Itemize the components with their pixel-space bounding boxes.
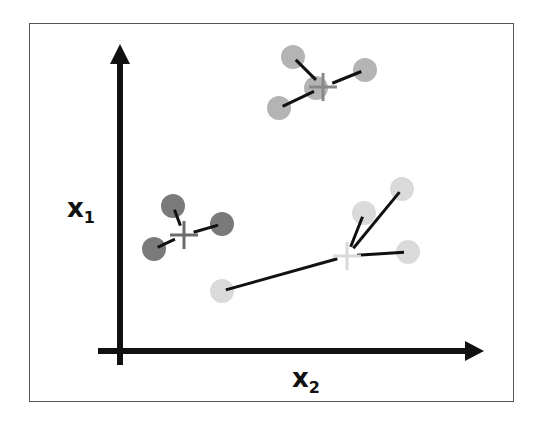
assignment-line — [296, 60, 316, 80]
data-point — [161, 194, 185, 218]
top-cluster — [267, 45, 377, 120]
x2-axis-label: x2 — [292, 365, 320, 396]
data-point — [267, 96, 291, 120]
data-point — [353, 58, 377, 82]
assignment-line — [226, 259, 338, 290]
assignment-line — [283, 91, 314, 106]
horizontal-axis — [98, 341, 484, 361]
right-cluster — [210, 177, 420, 303]
left-cluster — [142, 194, 234, 261]
data-point — [210, 212, 234, 236]
x1-axis-label: x1 — [67, 195, 95, 226]
data-point — [142, 237, 166, 261]
data-point — [210, 279, 234, 303]
data-point — [352, 201, 376, 225]
centroid-cross-icon — [170, 221, 198, 249]
vertical-axis — [110, 44, 130, 365]
